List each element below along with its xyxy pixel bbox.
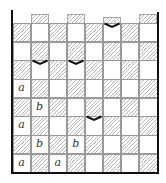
board-cell — [13, 42, 32, 61]
board-cell — [139, 98, 158, 117]
board-cell — [139, 154, 158, 173]
board-cell — [67, 116, 86, 135]
board-cell — [13, 60, 32, 79]
board-cell — [121, 60, 140, 79]
board-cell — [139, 23, 158, 42]
board-cell — [13, 98, 32, 117]
chevron-down-icon — [67, 59, 85, 67]
board-cell — [85, 135, 104, 154]
board-cell — [67, 98, 86, 117]
board-cell — [103, 79, 122, 98]
board-cell — [49, 23, 68, 42]
bottom-wall — [11, 172, 159, 174]
board-cell — [103, 116, 122, 135]
chevron-down-icon — [31, 59, 49, 67]
board-cell — [103, 42, 122, 61]
left-wall — [11, 10, 13, 174]
board-cell — [139, 135, 158, 154]
board-cell — [139, 60, 158, 79]
board-cell — [85, 23, 104, 42]
top-partial-tile — [31, 14, 49, 23]
board-cell — [121, 116, 140, 135]
board-cell — [85, 154, 104, 173]
board-cell — [103, 60, 122, 79]
board-cell — [31, 23, 50, 42]
board-cell — [49, 116, 68, 135]
board-cell — [121, 79, 140, 98]
board-cell — [85, 60, 104, 79]
board-cell — [103, 135, 122, 154]
board-cell — [49, 135, 68, 154]
board-cell — [121, 23, 140, 42]
board-cell — [85, 79, 104, 98]
board-cell — [121, 42, 140, 61]
cell-label: b — [31, 98, 49, 117]
top-partial-tile — [139, 14, 157, 23]
board-cell — [121, 154, 140, 173]
board-cell — [103, 98, 122, 117]
board-cell — [31, 79, 50, 98]
board-cell — [139, 79, 158, 98]
board-cell — [67, 154, 86, 173]
board-cell — [13, 135, 32, 154]
board-cell — [49, 98, 68, 117]
chevron-down-icon — [85, 115, 103, 123]
cell-label: a — [49, 154, 67, 173]
board-cell — [121, 135, 140, 154]
cell-label: b — [31, 135, 49, 154]
board-cell — [67, 23, 86, 42]
board-cell — [103, 154, 122, 173]
board-cell — [85, 42, 104, 61]
board-cell — [13, 23, 32, 42]
board-cell — [31, 116, 50, 135]
cell-label: b — [67, 135, 85, 154]
cell-label: a — [13, 116, 31, 135]
top-partial-tile — [67, 14, 85, 23]
board-cell — [31, 154, 50, 173]
board-cell — [49, 42, 68, 61]
right-wall — [157, 12, 159, 174]
cell-label: a — [13, 154, 31, 173]
board-cell — [49, 79, 68, 98]
board-cell — [67, 79, 86, 98]
cell-label: a — [13, 79, 31, 98]
tiling-board: ababbaa — [0, 0, 166, 183]
board-cell — [139, 42, 158, 61]
board-cell — [49, 60, 68, 79]
board-cell — [139, 116, 158, 135]
board-cell — [121, 98, 140, 117]
chevron-down-icon — [103, 22, 121, 30]
